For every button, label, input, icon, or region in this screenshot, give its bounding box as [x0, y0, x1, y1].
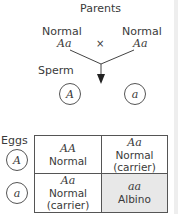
cell-Aa-bottom-left: Aa Normal (carrier): [35, 174, 102, 212]
sperm-allele-a-text: a: [132, 88, 139, 101]
cell-note: (carrier): [47, 199, 90, 211]
egg-allele-a: a: [6, 182, 28, 204]
cell-AA: AA Normal: [35, 136, 102, 174]
cell-genotype: Aa: [127, 137, 142, 149]
cell-phenotype: Normal: [116, 149, 154, 161]
cell-phenotype: Albino: [118, 193, 151, 205]
eggs-label: Eggs: [1, 134, 28, 147]
egg-allele-A-text: A: [13, 154, 21, 167]
cell-genotype: Aa: [61, 175, 76, 187]
cell-note: (carrier): [113, 161, 156, 173]
egg-allele-A: A: [6, 149, 28, 171]
cell-aa: aa Albino: [102, 174, 167, 212]
sperm-label: Sperm: [38, 64, 74, 77]
punnett-square: AA Normal Aa Normal (carrier) Aa Normal …: [34, 135, 168, 213]
sperm-allele-A-text: A: [66, 88, 74, 101]
cell-genotype: aa: [128, 181, 141, 193]
cell-phenotype: Normal: [49, 187, 87, 199]
sperm-allele-A: A: [59, 83, 81, 105]
cell-phenotype: Normal: [49, 155, 87, 167]
sperm-allele-a: a: [124, 83, 146, 105]
cell-Aa-top-right: Aa Normal (carrier): [102, 136, 167, 174]
cell-genotype: AA: [60, 143, 76, 155]
egg-allele-a-text: a: [14, 187, 21, 200]
